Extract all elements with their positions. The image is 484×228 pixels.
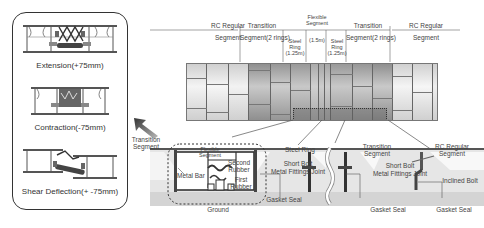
flexible-segment-detail-label: Flexible Segment xyxy=(196,146,224,158)
transition-left-label: Transition Segment(2 rings) xyxy=(240,22,284,41)
second-rubber-label: Second Rubber xyxy=(224,159,254,173)
steel-ring-label: Steel Ring xyxy=(280,146,320,153)
rc-regular-right-label: RC Regular Segment xyxy=(396,22,456,41)
gasket-seal-label-2: Gasket Seal xyxy=(366,206,410,213)
first-rubber-label: First Rubber xyxy=(226,176,256,190)
rc-regular-segment-detail-label: RC Regular Segment xyxy=(430,143,474,157)
short-bolt-label-1: Short Bolt xyxy=(278,160,318,167)
shear-deflection-diagram xyxy=(21,147,119,181)
transition-segment-left-label: Transition Segment xyxy=(128,136,164,150)
inclined-bolt-label: Inclined Bolt xyxy=(436,177,484,184)
short-bolt-label-2: Short Bolt xyxy=(380,162,420,169)
metal-fittings-joint-label-1: Metal Fittings Joint xyxy=(268,168,328,175)
detail-highlight-box xyxy=(293,108,387,121)
gasket-seal-label-3: Gasket Seal xyxy=(432,206,476,213)
metal-fittings-joint-label-2: Metal Fittings Joint xyxy=(370,170,430,177)
ground-label: Ground xyxy=(198,206,238,213)
transition-right-label: Transition Segment(2 rings) xyxy=(346,22,390,41)
metal-bar-label: Metal Bar xyxy=(176,172,206,179)
steel-ring-right-label: Steel Ring (1.25m) xyxy=(326,38,348,56)
contraction-label: Contraction(-75mm) xyxy=(13,123,127,132)
tunnel-cylinder xyxy=(186,63,438,121)
transition-segment-right-label: Transition Segment xyxy=(360,143,394,157)
gasket-seal-label-1: Gasket Seal xyxy=(262,196,306,203)
shear-deflection-label: Shear Deflection(+ -75mm) xyxy=(13,187,127,196)
extension-diagram xyxy=(21,23,119,57)
extension-label: Extension(+75mm) xyxy=(13,61,127,70)
deformation-modes-panel: Extension(+75mm) Contraction(-75mm) Shea… xyxy=(12,12,128,210)
contraction-diagram xyxy=(21,85,119,119)
